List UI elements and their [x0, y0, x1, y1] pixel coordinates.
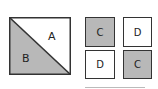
small-square-c-bottom-right: C	[123, 50, 152, 79]
label-b: B	[22, 53, 30, 64]
label-a: A	[48, 31, 56, 42]
large-square-diagram: A B	[9, 17, 71, 75]
diagonal-split-square	[9, 17, 71, 75]
label-d: D	[134, 27, 142, 38]
bottom-divider	[85, 87, 145, 88]
small-square-d-top-right: D	[123, 17, 152, 47]
small-square-d-bottom-left: D	[85, 50, 115, 79]
label-d: D	[96, 59, 104, 70]
label-c: C	[134, 59, 141, 70]
label-c: C	[97, 27, 104, 38]
small-square-c-top-left: C	[85, 17, 115, 47]
